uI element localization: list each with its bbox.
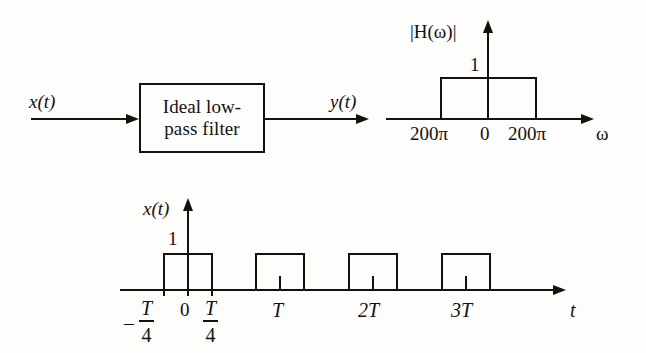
axis-tick-minus-T-over-4	[163, 289, 165, 296]
output-signal-label: y(t)	[330, 92, 356, 111]
frequency-x-axis-label: ω	[596, 124, 609, 143]
tick-label-minus-T-over-4: T 4	[139, 298, 154, 345]
frequency-tick-label-center: 0	[480, 124, 490, 143]
fraction-numerator: T	[204, 298, 217, 319]
time-y-axis-label: x(t)	[143, 199, 169, 218]
passband-rectangle	[440, 77, 537, 120]
fraction-bar	[139, 320, 154, 322]
axis-tick-origin	[187, 289, 189, 296]
filter-block-label: Ideal low- pass filter	[141, 85, 263, 151]
arrow-up-icon	[183, 198, 193, 211]
negative-sign-label: –	[124, 312, 134, 335]
arrow-right-icon	[581, 114, 594, 124]
time-x-axis-label: t	[570, 300, 576, 320]
frequency-amplitude-label: 1	[470, 55, 480, 74]
arrow-right-icon	[356, 114, 369, 124]
axis-tick-3T	[465, 276, 467, 290]
fraction-denominator: 4	[205, 324, 217, 345]
axis-tick-2T	[372, 276, 374, 290]
fraction-denominator: 4	[141, 324, 153, 345]
tick-label-T-over-4: T 4	[203, 298, 218, 345]
input-signal-line	[31, 118, 128, 120]
filter-label-line-1: Ideal low-	[163, 96, 242, 118]
arrow-up-icon	[483, 20, 493, 33]
arrow-right-icon	[126, 114, 139, 124]
tick-label-T: T	[272, 300, 283, 320]
frequency-tick-label-left: 200π	[410, 124, 448, 143]
tick-label-3T: 3T	[451, 300, 472, 320]
fraction-numerator: T	[140, 298, 153, 319]
ideal-lowpass-filter-block: Ideal low- pass filter	[139, 83, 265, 153]
input-signal-label: x(t)	[29, 92, 55, 111]
frequency-y-axis-label: |H(ω)|	[410, 22, 457, 41]
time-amplitude-label: 1	[168, 229, 178, 248]
tick-label-2T: 2T	[358, 300, 379, 320]
fraction-bar	[203, 320, 218, 322]
tick-label-origin: 0	[180, 300, 190, 319]
signals-and-systems-figure: x(t) Ideal low- pass filter y(t) |H(ω)| …	[0, 0, 646, 353]
axis-tick-T	[279, 276, 281, 290]
pulse-rectangle	[163, 253, 213, 290]
output-signal-line	[264, 118, 361, 120]
frequency-tick-label-right: 200π	[508, 124, 546, 143]
filter-label-line-2: pass filter	[164, 118, 240, 140]
axis-tick-T-over-4	[211, 289, 213, 296]
arrow-right-icon	[553, 285, 566, 295]
